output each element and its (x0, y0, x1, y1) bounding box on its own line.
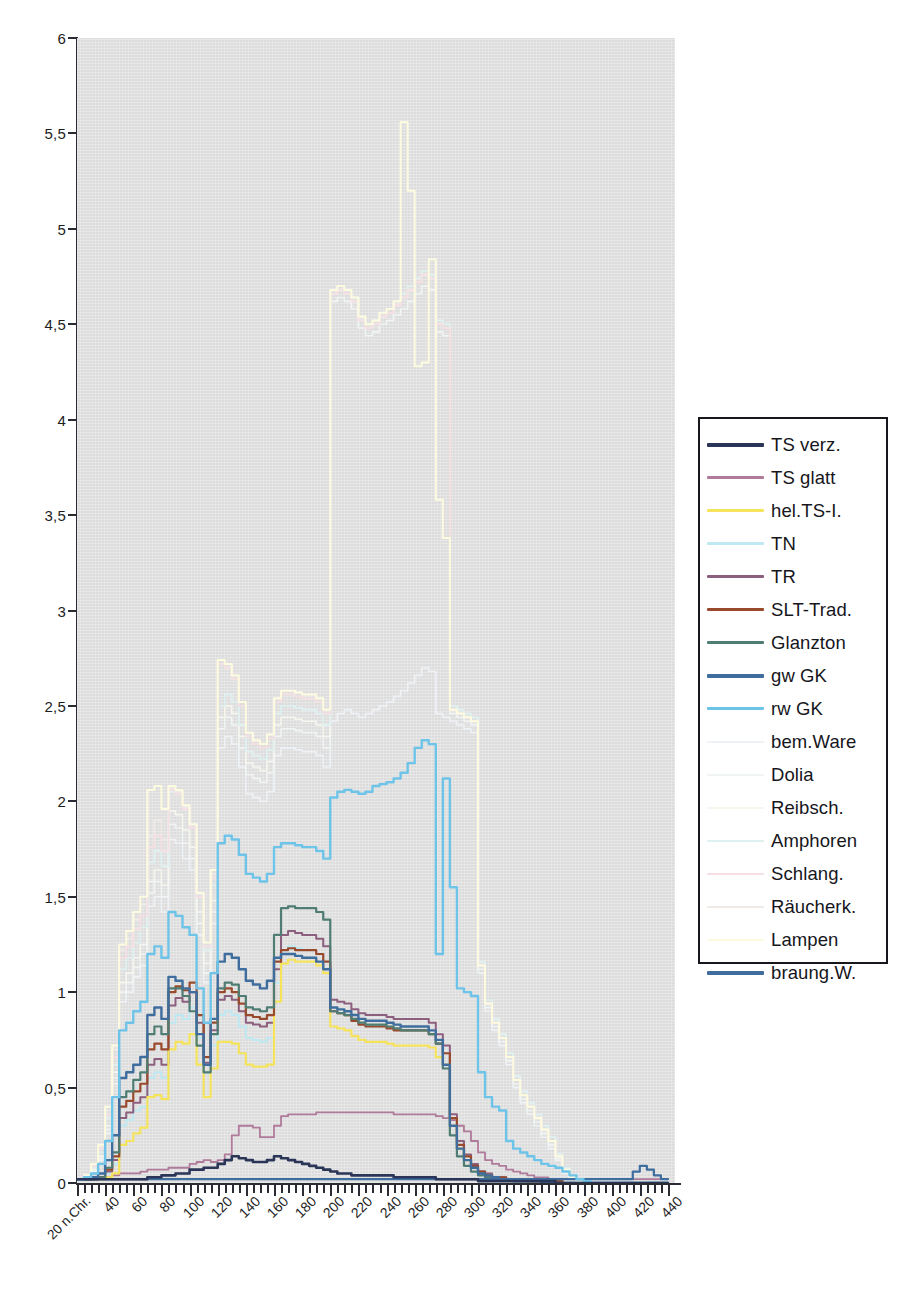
legend-item-label: hel.TS-I. (771, 500, 842, 522)
series-line (77, 275, 668, 1183)
x-axis-minor-tick (204, 1185, 206, 1193)
x-axis-minor-tick (260, 1185, 262, 1193)
legend-item[interactable]: Amphoren (700, 824, 886, 857)
x-axis-tick-label: 140 (235, 1193, 263, 1221)
legend-item[interactable]: TR (700, 560, 886, 593)
y-axis-tick-label: 1,5 (45, 888, 66, 905)
x-axis-minor-tick (654, 1185, 656, 1193)
x-axis-minor-tick (232, 1185, 234, 1193)
x-axis-minor-tick (422, 1185, 424, 1193)
series-line (77, 906, 668, 1183)
x-axis-minor-tick (626, 1185, 628, 1193)
x-axis-minor-tick (98, 1185, 100, 1193)
legend-item[interactable]: TS glatt (700, 461, 886, 494)
series-line (77, 931, 668, 1183)
x-axis-major-tick (668, 1185, 670, 1196)
x-axis-minor-tick (197, 1185, 199, 1193)
legend-item-label: Lampen (771, 929, 838, 951)
x-axis-minor-tick (253, 1185, 255, 1193)
legend-item-label: Schlang. (771, 863, 844, 885)
x-axis-minor-tick (436, 1185, 438, 1193)
y-axis-tick-label: 2 (57, 793, 66, 810)
x-axis-minor-tick (633, 1185, 635, 1193)
x-axis-minor-tick (569, 1185, 571, 1193)
y-axis-tick-mark (68, 419, 77, 421)
legend-item[interactable]: Dolia (700, 758, 886, 791)
x-axis-minor-tick (562, 1185, 564, 1193)
legend-item[interactable]: Glanzton (700, 626, 886, 659)
legend-item-label: Amphoren (771, 830, 857, 852)
y-axis-tick-mark (68, 800, 77, 802)
legend-item[interactable]: Räucherk. (700, 890, 886, 923)
x-axis-minor-tick (147, 1185, 149, 1193)
legend-item[interactable]: Schlang. (700, 857, 886, 890)
legend-item[interactable]: Reibsch. (700, 791, 886, 824)
legend-color-swatch-icon (707, 707, 764, 710)
y-axis-tick-mark (68, 37, 77, 39)
x-axis-tick-label: 180 (292, 1193, 320, 1221)
y-axis-tick-label: 5 (57, 220, 66, 237)
plot-area (77, 38, 675, 1183)
legend: TS verz.TS glatthel.TS-I.TNTRSLT-Trad.Gl… (698, 417, 888, 964)
legend-color-swatch-icon (707, 971, 764, 975)
x-axis-major-tick (77, 1185, 79, 1196)
x-axis-tick-label: 380 (573, 1193, 601, 1221)
x-axis-minor-tick (605, 1185, 607, 1193)
legend-item[interactable]: bem.Ware (700, 725, 886, 758)
series-line (77, 668, 668, 1183)
y-axis-tick-label: 4 (57, 411, 66, 428)
x-axis-minor-tick (239, 1185, 241, 1193)
x-axis-minor-tick (598, 1185, 600, 1193)
legend-item[interactable]: rw GK (700, 692, 886, 725)
x-axis-minor-tick (154, 1185, 156, 1193)
x-axis-major-tick (330, 1185, 332, 1196)
legend-item[interactable]: gw GK (700, 659, 886, 692)
x-axis-minor-tick (401, 1185, 403, 1193)
legend-item[interactable]: SLT-Trad. (700, 593, 886, 626)
x-axis-minor-tick (168, 1185, 170, 1193)
legend-color-swatch-icon (707, 575, 764, 578)
y-axis-tick-mark (68, 323, 77, 325)
x-axis-minor-tick (91, 1185, 93, 1193)
x-axis-minor-tick (309, 1185, 311, 1193)
legend-color-swatch-icon (707, 476, 764, 479)
y-axis-tick-label: 3 (57, 602, 66, 619)
x-axis-major-tick (358, 1185, 360, 1196)
x-axis-tick-label: 300 (460, 1193, 488, 1221)
legend-item[interactable]: TS verz. (700, 428, 886, 461)
x-axis-tick-label: 360 (545, 1193, 573, 1221)
x-axis-minor-tick (520, 1185, 522, 1193)
x-axis-tick-label: 240 (376, 1193, 404, 1221)
y-axis-tick-mark (68, 1182, 77, 1184)
x-axis-minor-tick (485, 1185, 487, 1193)
x-axis-minor-tick (175, 1185, 177, 1193)
chart-page: 00,511,522,533,544,555,56 20 n.Chr.40608… (0, 0, 900, 1304)
x-axis-major-tick (190, 1185, 192, 1196)
legend-item-label: rw GK (771, 698, 823, 720)
x-axis-minor-tick (140, 1185, 142, 1193)
x-axis-minor-tick (372, 1185, 374, 1193)
x-axis-tick-label: 320 (489, 1193, 517, 1221)
x-axis-major-tick (612, 1185, 614, 1196)
legend-item-label: TN (771, 533, 796, 555)
legend-item-label: Dolia (771, 764, 814, 786)
x-axis-minor-tick (126, 1185, 128, 1193)
x-axis-minor-tick (591, 1185, 593, 1193)
x-axis-minor-tick (119, 1185, 121, 1193)
legend-color-swatch-icon (707, 840, 764, 842)
series-line (77, 271, 668, 1183)
legend-item[interactable]: braung.W. (700, 956, 886, 989)
x-axis-minor-tick (211, 1185, 213, 1193)
x-axis-minor-tick (478, 1185, 480, 1193)
legend-item[interactable]: Lampen (700, 923, 886, 956)
legend-item[interactable]: hel.TS-I. (700, 494, 886, 527)
x-axis-major-tick (302, 1185, 304, 1196)
x-axis-minor-tick (183, 1185, 185, 1193)
x-axis-tick-label: 280 (432, 1193, 460, 1221)
legend-item[interactable]: TN (700, 527, 886, 560)
legend-color-swatch-icon (707, 807, 764, 809)
legend-color-swatch-icon (707, 509, 764, 512)
x-axis-tick-label: 200 (320, 1193, 348, 1221)
x-axis-major-tick (105, 1185, 107, 1196)
series-line (77, 1112, 668, 1179)
